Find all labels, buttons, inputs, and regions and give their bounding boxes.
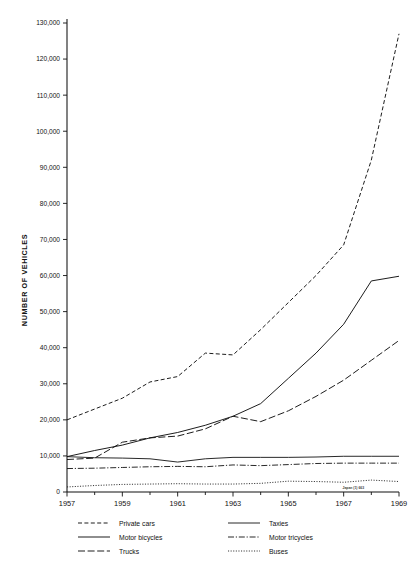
y-axis-tick-label: 90,000 <box>40 164 61 171</box>
series-line-motor-tricycles <box>67 463 399 468</box>
legend-item-buses: Buses <box>228 548 288 555</box>
x-axis-tick-label: 1957 <box>59 499 75 508</box>
legend: Private carsMotor bicyclesTrucksTaxiesMo… <box>78 520 313 555</box>
x-axis-tick-label: 1959 <box>114 499 130 508</box>
legend-label: Buses <box>269 548 288 555</box>
series-line-private-cars <box>67 34 399 420</box>
legend-label: Private cars <box>119 520 155 527</box>
y-axis-tick-label: 10,000 <box>40 452 61 459</box>
y-axis-tick-label: 60,000 <box>40 272 61 279</box>
y-axis-tick-label: 50,000 <box>40 308 61 315</box>
y-axis-tick-label: 70,000 <box>40 236 61 243</box>
vehicle-registration-line-chart: NUMBER OF VEHICLES 010,00020,00030,00040… <box>0 0 415 569</box>
legend-label: Trucks <box>119 548 140 555</box>
x-axis-ticks: 1957195919611963196519671969 <box>59 492 407 508</box>
y-axis-tick-label: 80,000 <box>40 200 61 207</box>
y-axis-tick-label: 20,000 <box>40 416 61 423</box>
y-axis-title-label: NUMBER OF VEHICLES <box>20 234 29 326</box>
x-axis-tick-label: 1967 <box>335 499 351 508</box>
y-axis-tick-label: 0 <box>56 488 60 495</box>
y-axis-ticks: 010,00020,00030,00040,00050,00060,00070,… <box>36 19 67 495</box>
y-axis-tick-label: 30,000 <box>40 380 61 387</box>
x-axis-tick-label: 1969 <box>391 499 407 508</box>
data-series-group <box>67 34 399 487</box>
y-axis-title: NUMBER OF VEHICLES <box>20 234 29 326</box>
axis-annotation-group: Japan (1) 663 <box>343 486 365 490</box>
legend-label: Motor bicycles <box>119 534 163 542</box>
series-line-taxies <box>67 456 399 462</box>
x-axis-tick-label: 1961 <box>169 499 185 508</box>
x-axis-tick-label: 1963 <box>225 499 241 508</box>
y-axis-tick-label: 110,000 <box>37 92 61 99</box>
legend-label: Taxies <box>269 520 289 527</box>
legend-item-motor-tricycles: Motor tricycles <box>228 534 313 542</box>
y-axis-tick-label: 100,000 <box>36 128 60 135</box>
x-axis-tick-label: 1965 <box>280 499 296 508</box>
series-line-motor-bicycles <box>67 276 399 456</box>
y-axis-tick-label: 120,000 <box>36 55 60 62</box>
legend-item-taxies: Taxies <box>228 520 289 527</box>
chart-svg: NUMBER OF VEHICLES 010,00020,00030,00040… <box>0 0 415 569</box>
legend-item-trucks: Trucks <box>78 548 140 555</box>
y-axis-tick-label: 130,000 <box>36 19 60 26</box>
legend-item-private-cars: Private cars <box>78 520 155 527</box>
axis-artifact-text: Japan (1) 663 <box>343 486 365 490</box>
legend-item-motor-bicycles: Motor bicycles <box>78 534 163 542</box>
y-axis-tick-label: 40,000 <box>40 344 61 351</box>
legend-label: Motor tricycles <box>269 534 313 542</box>
